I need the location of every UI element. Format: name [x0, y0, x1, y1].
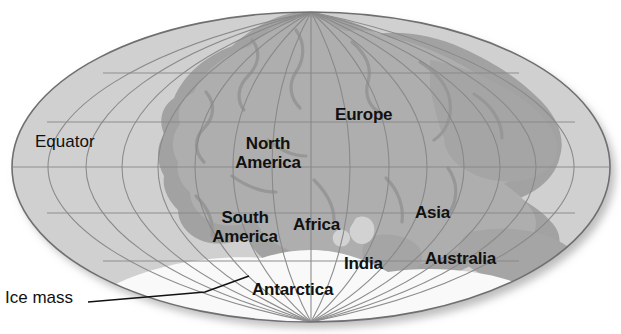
label-europe: Europe — [335, 105, 392, 124]
label-ice-mass: Ice mass — [5, 288, 73, 307]
label-asia: Asia — [415, 203, 450, 222]
label-south-america: South America — [200, 208, 290, 246]
label-equator: Equator — [35, 132, 95, 151]
label-africa: Africa — [293, 215, 340, 234]
label-australia: Australia — [425, 249, 496, 268]
pangaea-map-figure: Equator Ice mass Europe North America As… — [0, 0, 621, 334]
label-india: India — [344, 254, 383, 273]
label-north-america: North America — [228, 134, 308, 172]
label-antarctica: Antarctica — [252, 280, 333, 299]
